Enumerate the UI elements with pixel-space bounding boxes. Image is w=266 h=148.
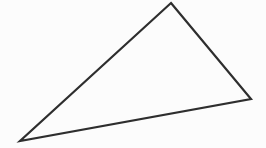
triangle-outline (20, 3, 251, 141)
figure-canvas (0, 0, 266, 148)
triangle-svg (0, 0, 266, 148)
